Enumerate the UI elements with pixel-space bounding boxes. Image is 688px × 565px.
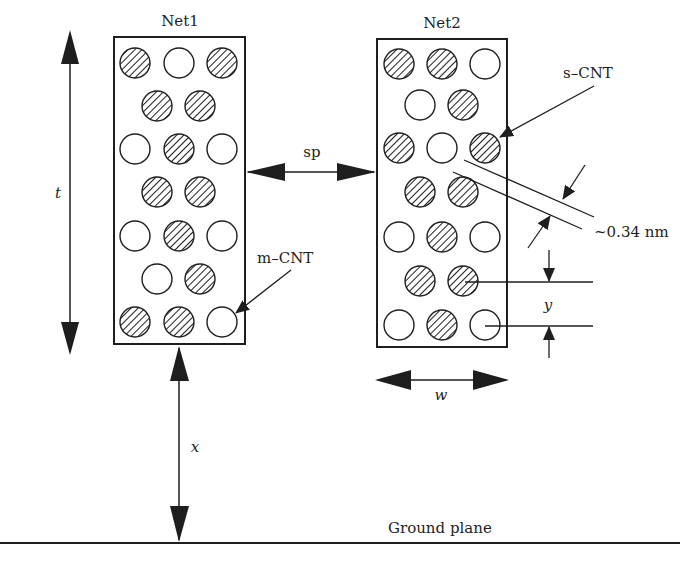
arrowhead-down-icon	[61, 322, 79, 355]
y-label: y	[543, 296, 553, 314]
net1-bundle-box	[114, 37, 245, 344]
m-cnt-open-circle-icon	[405, 90, 435, 120]
s-cnt-hatched-circle-icon	[405, 266, 435, 296]
s-cnt-hatched-circle-icon	[142, 91, 172, 121]
s-cnt-hatched-circle-icon	[142, 177, 172, 207]
m-cnt-open-circle-icon	[470, 49, 500, 79]
arrowhead-right-icon	[473, 370, 509, 390]
net1-cnt-array	[120, 48, 237, 337]
w-label: w	[435, 386, 448, 404]
x-dimension-arrow	[170, 346, 189, 542]
m-cnt-open-circle-icon	[207, 307, 237, 337]
sp-dimension-arrow	[246, 163, 376, 181]
s-cnt-hatched-circle-icon	[185, 264, 215, 294]
diagram-canvas: Net1 Net2 t sp m–CNT s–CNT	[0, 0, 688, 565]
m-cnt-open-circle-icon	[207, 134, 237, 164]
s-cnt-pointer	[500, 86, 594, 137]
t-label: t	[55, 184, 62, 202]
t-dimension-arrow	[61, 30, 79, 355]
s-cnt-hatched-circle-icon	[448, 266, 478, 296]
s-cnt-hatched-circle-icon	[185, 91, 215, 121]
arrowhead-down-icon	[170, 506, 189, 542]
s-cnt-hatched-circle-icon	[164, 221, 194, 251]
m-cnt-open-circle-icon	[142, 264, 172, 294]
arrowhead-left-icon	[246, 163, 285, 181]
s-cnt-hatched-circle-icon	[427, 222, 457, 252]
net1-title: Net1	[161, 12, 199, 30]
spacing-label: ~0.34 nm	[594, 223, 669, 241]
net2-cnt-array	[384, 49, 500, 340]
s-cnt-hatched-circle-icon	[164, 134, 194, 164]
s-cnt-label: s–CNT	[563, 64, 613, 82]
arrowhead-up-icon	[61, 30, 79, 64]
m-cnt-label: m–CNT	[257, 249, 313, 267]
y-dimension-indicator	[465, 250, 593, 358]
s-cnt-hatched-circle-icon	[185, 177, 215, 207]
arrowhead-right-icon	[337, 163, 376, 181]
net2-title: Net2	[423, 14, 461, 32]
s-cnt-hatched-circle-icon	[427, 49, 457, 79]
s-cnt-hatched-circle-icon	[120, 48, 150, 78]
arrowhead-up-icon	[170, 346, 189, 381]
arrowhead-left-icon	[375, 370, 411, 390]
s-cnt-hatched-circle-icon	[427, 310, 457, 340]
s-cnt-hatched-circle-icon	[384, 49, 414, 79]
m-cnt-open-circle-icon	[207, 221, 237, 251]
cnt-interconnect-diagram: Net1 Net2 t sp m–CNT s–CNT	[0, 0, 688, 565]
s-cnt-hatched-circle-icon	[207, 48, 237, 78]
m-cnt-open-circle-icon	[164, 48, 194, 78]
sp-label: sp	[303, 143, 320, 161]
m-cnt-open-circle-icon	[470, 310, 500, 340]
m-cnt-open-circle-icon	[120, 221, 150, 251]
m-cnt-open-circle-icon	[384, 222, 414, 252]
x-label: x	[191, 438, 200, 456]
s-cnt-hatched-circle-icon	[384, 133, 414, 163]
m-cnt-open-circle-icon	[384, 310, 414, 340]
m-cnt-open-circle-icon	[427, 133, 457, 163]
net2-bundle-box	[377, 39, 507, 347]
s-cnt-hatched-circle-icon	[120, 307, 150, 337]
m-cnt-open-circle-icon	[470, 222, 500, 252]
s-cnt-hatched-circle-icon	[405, 177, 435, 207]
m-cnt-open-circle-icon	[120, 134, 150, 164]
s-cnt-hatched-circle-icon	[448, 90, 478, 120]
s-cnt-hatched-circle-icon	[164, 307, 194, 337]
s-cnt-hatched-circle-icon	[470, 133, 500, 163]
ground-plane-label: Ground plane	[388, 519, 492, 537]
